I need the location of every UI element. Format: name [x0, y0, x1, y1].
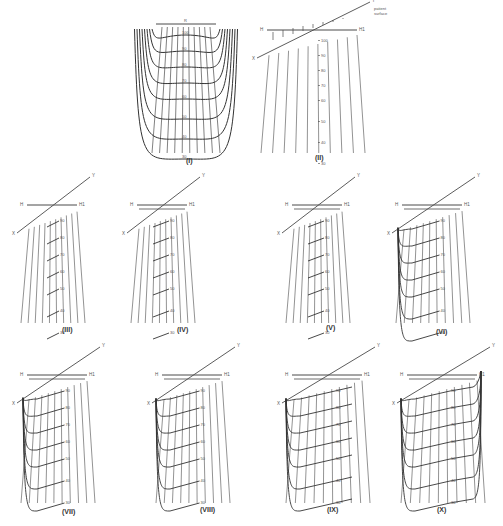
panel-x: XYHH190807060504030(X) — [392, 343, 495, 514]
ray-line — [354, 383, 360, 503]
ray-line — [449, 215, 453, 323]
dose-label: 90 — [182, 46, 187, 51]
axis-label-x: X — [392, 401, 395, 406]
ray-line — [331, 215, 335, 323]
dose-label: 30 — [451, 500, 456, 505]
dose-label: 100 — [182, 30, 189, 35]
axis-label-h1: H1 — [364, 372, 370, 377]
isodose-curve-90 — [23, 391, 65, 400]
ray-line — [159, 221, 160, 323]
dose-label: 60 — [182, 94, 187, 99]
ray-line — [412, 225, 416, 323]
axis-label-x: X — [12, 231, 15, 236]
isodose-curve-70 — [398, 228, 440, 263]
dose-label: 80 — [336, 405, 341, 410]
ray-line — [189, 27, 190, 153]
isodose-curve-80 — [156, 399, 200, 417]
ray-line — [328, 42, 331, 153]
axis-label-y: Y — [357, 173, 360, 178]
dose-label: 70 — [321, 83, 326, 88]
panel-label: (IX) — [327, 506, 338, 514]
panel-label: (X) — [437, 506, 446, 514]
isodose-curve-30 — [308, 333, 324, 339]
axis-label-x: X — [277, 401, 280, 406]
axis-label-x: X — [122, 231, 125, 236]
dose-label: 80 — [170, 235, 175, 240]
dose-label: 90 — [321, 53, 326, 58]
ray-line — [167, 27, 173, 153]
ray-line — [314, 221, 315, 323]
dose-label: 50 — [451, 456, 456, 461]
dose-label: 80 — [66, 405, 71, 410]
panel-label: (I) — [186, 157, 193, 165]
ray-line — [61, 389, 62, 503]
isodose-curve-70 — [47, 255, 59, 261]
isodose-curve-80 — [286, 399, 352, 417]
ray-line — [199, 27, 205, 153]
ray-line — [357, 35, 365, 153]
ray-line — [216, 383, 222, 503]
dose-label: 40 — [182, 134, 187, 139]
dose-label: 50 — [325, 286, 330, 291]
dose-label: 80 — [325, 235, 330, 240]
beam-axis-mark: R — [184, 18, 187, 23]
axis-label-x: X — [252, 56, 255, 61]
dose-label: 70 — [336, 422, 341, 427]
axis-label-h1: H1 — [89, 372, 95, 377]
axis-label-h: H — [130, 202, 133, 207]
dose-label: 70 — [441, 252, 446, 257]
ray-line — [462, 385, 466, 503]
isodose-curve-60 — [398, 228, 440, 280]
dose-label: 90 — [451, 388, 456, 393]
dose-label: 100 — [321, 38, 328, 43]
axis-label-y: Y — [372, 0, 375, 3]
axis-label-y: Y — [237, 343, 240, 348]
ray-line — [323, 391, 324, 503]
axis-label-x: X — [12, 401, 15, 406]
isodose-curve-60 — [156, 399, 200, 450]
ray-line — [21, 229, 29, 323]
ray-line — [300, 225, 304, 323]
ray-line — [429, 393, 432, 503]
ray-line — [66, 215, 70, 323]
dose-label: 60 — [451, 439, 456, 444]
ray-line — [347, 37, 353, 153]
ray-line — [296, 48, 299, 153]
isodose-curve-90 — [153, 221, 169, 227]
dose-label: 90 — [336, 388, 341, 393]
ray-line — [28, 227, 34, 323]
dose-label: 40 — [451, 478, 456, 483]
ray-line — [166, 219, 167, 323]
ray-line — [342, 212, 350, 323]
dose-label: 50 — [182, 114, 187, 119]
axis-label-h1: H1 — [464, 202, 470, 207]
isodose-curve-30 — [47, 333, 59, 339]
ray-line — [49, 221, 50, 323]
isodose-curve-40 — [401, 371, 481, 489]
dose-label: 90 — [66, 388, 71, 393]
axis-label-y: Y — [202, 173, 205, 178]
axis-label-h: H — [260, 27, 263, 32]
ray-line — [314, 393, 317, 503]
axis-label-h: H — [400, 372, 403, 377]
dose-label: 70 — [325, 252, 330, 257]
panel-label: (IV) — [177, 326, 188, 334]
dose-label: 70 — [60, 252, 65, 257]
isodose-curve-80 — [153, 238, 169, 244]
isodose-curve-30 — [401, 371, 481, 511]
isodose-curve-50 — [401, 371, 481, 467]
isodose-curve-90 — [308, 221, 324, 227]
dose-label: 60 — [325, 269, 330, 274]
dose-label: 70 — [66, 422, 71, 427]
isodose-curve-80 — [23, 398, 65, 416]
dose-label: 30 — [321, 161, 326, 166]
axis-label-x: X — [277, 231, 280, 236]
panel-label: (VII) — [62, 508, 75, 516]
axis-label-h: H — [395, 202, 398, 207]
dose-label: 40 — [336, 478, 341, 483]
dose-label: 70 — [182, 78, 187, 83]
dose-label: 80 — [451, 405, 456, 410]
ray-line — [321, 219, 322, 323]
panel-label: (III) — [62, 326, 73, 334]
ray-line — [187, 212, 195, 323]
